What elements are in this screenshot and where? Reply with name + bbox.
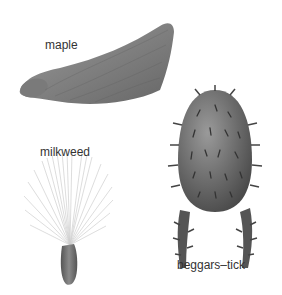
beggars-tick-seed-illustration [168,85,262,268]
milkweed-seed-illustration [24,151,113,285]
maple-seed-illustration [18,23,174,104]
milkweed-label: milkweed [40,145,90,159]
beggars-tick-label: beggars–tick [177,258,245,272]
maple-label: maple [45,38,78,52]
